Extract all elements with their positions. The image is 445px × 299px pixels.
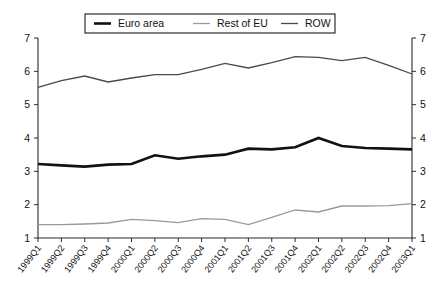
x-tick-label: 2000Q1 bbox=[109, 243, 137, 274]
y-tick-label-right: 2 bbox=[420, 198, 426, 210]
x-tick-label: 1999Q4 bbox=[86, 243, 114, 274]
x-tick-label: 2003Q1 bbox=[389, 243, 417, 274]
series-line-euro-area bbox=[38, 138, 412, 167]
legend-label-rest-of-eu: Rest of EU bbox=[217, 17, 268, 29]
y-tick-label-right: 5 bbox=[420, 98, 426, 110]
chart-container: 112233445566771999Q11999Q21999Q31999Q420… bbox=[0, 0, 445, 299]
x-tick-label: 2002Q1 bbox=[296, 243, 324, 274]
y-tick-label-right: 1 bbox=[420, 232, 426, 244]
x-tick-label: 1999Q2 bbox=[39, 243, 67, 274]
y-tick-label-left: 7 bbox=[24, 32, 30, 44]
y-tick-label-right: 7 bbox=[420, 32, 426, 44]
y-tick-label-right: 4 bbox=[420, 132, 426, 144]
y-tick-label-left: 5 bbox=[24, 98, 30, 110]
y-tick-label-right: 3 bbox=[420, 165, 426, 177]
legend-label-row: ROW bbox=[305, 17, 331, 29]
series-line-rest-of-eu bbox=[38, 204, 412, 225]
y-tick-label-left: 6 bbox=[24, 65, 30, 77]
x-tick-label: 2002Q4 bbox=[366, 243, 394, 274]
x-tick-label: 2001Q4 bbox=[273, 243, 301, 274]
x-tick-label: 2002Q2 bbox=[319, 243, 347, 274]
series-line-row bbox=[38, 57, 412, 88]
x-tick-label: 1999Q1 bbox=[15, 243, 43, 274]
x-tick-label: 2001Q2 bbox=[226, 243, 254, 274]
x-tick-label: 2001Q1 bbox=[202, 243, 230, 274]
x-tick-label: 2002Q3 bbox=[343, 243, 371, 274]
x-tick-label: 1999Q3 bbox=[62, 243, 90, 274]
x-tick-label: 2000Q3 bbox=[156, 243, 184, 274]
line-chart: 112233445566771999Q11999Q21999Q31999Q420… bbox=[0, 0, 445, 299]
y-tick-label-left: 2 bbox=[24, 198, 30, 210]
x-tick-label: 2000Q4 bbox=[179, 243, 207, 274]
y-tick-label-left: 1 bbox=[24, 232, 30, 244]
legend-label-euro-area: Euro area bbox=[118, 17, 164, 29]
x-tick-label: 2001Q3 bbox=[249, 243, 277, 274]
y-tick-label-right: 6 bbox=[420, 65, 426, 77]
x-tick-label: 2000Q2 bbox=[132, 243, 160, 274]
y-tick-label-left: 3 bbox=[24, 165, 30, 177]
y-tick-label-left: 4 bbox=[24, 132, 30, 144]
